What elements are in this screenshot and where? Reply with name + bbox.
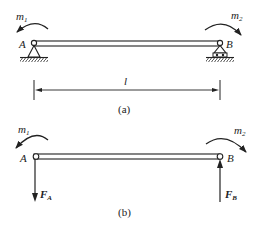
point-a-label: A bbox=[19, 152, 27, 164]
figure-b: m1 m2 A B FA FB (b) bbox=[16, 123, 246, 219]
moment-m2-icon bbox=[205, 24, 241, 35]
force-fa-arrow-icon bbox=[32, 159, 38, 202]
moment-m2-label: m2 bbox=[234, 124, 246, 138]
figure-a: m1 m2 A B bbox=[16, 9, 243, 116]
hinge-b-icon bbox=[217, 154, 223, 160]
moment-m2-icon bbox=[206, 139, 246, 152]
moment-m1-icon bbox=[17, 24, 48, 32]
point-a-label: A bbox=[18, 38, 26, 50]
point-b-label: B bbox=[226, 38, 233, 50]
moment-m1-icon bbox=[16, 136, 48, 149]
moment-m1-label: m1 bbox=[16, 10, 27, 24]
force-fb-arrow-icon bbox=[217, 159, 223, 202]
force-fb-label: FB bbox=[224, 188, 237, 202]
length-label: l bbox=[124, 75, 127, 87]
moment-m2-label: m2 bbox=[231, 9, 243, 23]
moment-m1-label: m1 bbox=[18, 123, 29, 137]
beam-diagram: m1 m2 A B bbox=[0, 0, 260, 232]
caption-b: (b) bbox=[118, 206, 131, 219]
force-fa-label: FA bbox=[39, 188, 52, 202]
beam-b bbox=[34, 154, 220, 159]
beam-a bbox=[34, 41, 220, 46]
point-b-label: B bbox=[227, 152, 234, 164]
hinge-a-icon bbox=[33, 154, 39, 160]
caption-a: (a) bbox=[118, 103, 131, 116]
